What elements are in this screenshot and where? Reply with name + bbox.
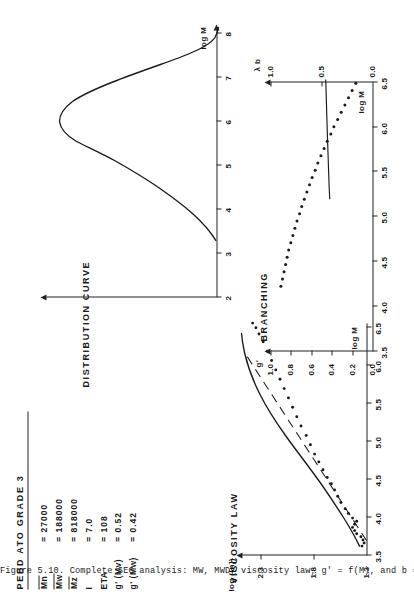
branching-xtick: 5.0 xyxy=(379,211,388,223)
param-value: 108 xyxy=(95,498,110,532)
param-value: 7.0 xyxy=(80,498,95,532)
branching-ytick-left: 0.8 xyxy=(285,363,294,375)
branching-xtick: 6.0 xyxy=(379,122,388,134)
branching-y-axis-left-arrow-icon xyxy=(264,348,270,354)
distribution-xtick: 6 xyxy=(223,119,232,124)
distribution-xtick: 4 xyxy=(223,207,232,212)
branching-y-axis-left-label: g' xyxy=(253,359,262,367)
distribution-xtick: 3 xyxy=(223,251,232,256)
param-equals: = xyxy=(95,532,110,545)
viscosity-xtick: 4.0 xyxy=(373,512,382,524)
branching-ytick-left: 0.2 xyxy=(347,363,356,375)
viscosity-xtick: 3.5 xyxy=(373,550,382,562)
branching-ytick-right: 0.0 xyxy=(367,65,376,77)
param-equals: = xyxy=(36,532,51,545)
figure-canvas: PEBD ATO GRADE 3 Mn = 27000 Mw = 188000 … xyxy=(0,0,414,607)
viscosity-xtick: 5.5 xyxy=(373,398,382,410)
param-equals: = xyxy=(125,532,140,545)
branching-y-axis-right-arrow-icon xyxy=(264,79,270,85)
param-value: 188000 xyxy=(51,498,66,532)
branching-panel: BRANCHING 1.0 0.8 0.6 0.4 0.2 0.0 g' xyxy=(250,11,410,393)
distribution-curve-plot xyxy=(44,21,220,297)
param-value: 27000 xyxy=(36,498,51,532)
param-equals: = xyxy=(80,532,95,545)
sample-parameters-title: PEBD ATO GRADE 3 xyxy=(14,411,28,589)
branching-ytick-left: 0.6 xyxy=(306,363,315,375)
branching-ytick-left: 0.4 xyxy=(326,363,335,375)
branching-y-axis-right-label: λ b xyxy=(252,58,261,71)
figure-page: PEBD ATO GRADE 3 Mn = 27000 Mw = 188000 … xyxy=(0,0,414,607)
branching-xtick: 5.5 xyxy=(379,166,388,178)
branching-ytick-left: 0.0 xyxy=(367,363,376,375)
branching-ytick-right: 1.0 xyxy=(265,65,274,77)
viscosity-xtick: 5.0 xyxy=(373,436,382,448)
param-value: 0.42 xyxy=(125,498,140,532)
param-equals: = xyxy=(51,532,66,545)
figure-caption: Figure 5.10. Complete SEC analysis: MW, … xyxy=(0,566,414,576)
branching-title: BRANCHING xyxy=(258,272,268,341)
branching-ytick-left: 1.0 xyxy=(265,363,274,375)
distribution-xtick: 7 xyxy=(223,75,232,80)
branching-xtick: 4.0 xyxy=(379,301,388,313)
distribution-curve-panel: DISTRIBUTION CURVE 2 3 4 5 6 7 8 log M xyxy=(16,15,248,393)
param-equals: = xyxy=(66,532,81,545)
param-value: 0.52 xyxy=(110,498,125,532)
branching-plot xyxy=(270,79,374,351)
branching-xtick: 3.5 xyxy=(379,346,388,358)
param-equals: = xyxy=(110,532,125,545)
branching-xtick: 6.5 xyxy=(379,77,388,89)
param-value: 818000 xyxy=(66,498,81,532)
viscosity-xtick: 4.5 xyxy=(373,474,382,486)
distribution-xtick: 8 xyxy=(223,31,232,36)
sample-parameters-box: PEBD ATO GRADE 3 Mn = 27000 Mw = 188000 … xyxy=(14,411,139,589)
distribution-xtick: 5 xyxy=(223,163,232,168)
branching-xtick: 4.5 xyxy=(379,256,388,268)
branching-ytick-right: 0.5 xyxy=(316,65,325,77)
